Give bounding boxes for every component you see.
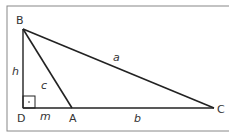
altitude-h-label: h: [12, 65, 19, 78]
triangle-diagram: B D A C a b c h m: [0, 0, 229, 135]
vertex-a-label: A: [69, 112, 77, 125]
side-b-label: b: [134, 112, 141, 125]
vertex-b-label: B: [16, 14, 24, 27]
vertex-c-label: C: [217, 103, 225, 116]
side-c-label: c: [41, 79, 47, 92]
vertex-d-label: D: [17, 112, 25, 125]
segment-m-label: m: [40, 110, 51, 123]
side-a: [23, 29, 214, 108]
side-a-label: a: [113, 51, 120, 64]
right-angle-dot: [28, 101, 30, 103]
